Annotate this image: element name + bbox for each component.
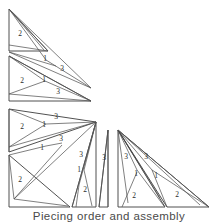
piece-label: 3 <box>59 134 63 143</box>
unit-7-seam-b <box>118 130 152 170</box>
triangle-unit-5 <box>72 122 96 207</box>
piecing-diagram: 2 1 3 2 1 3 <box>0 0 218 224</box>
unit-1-long-seam-d <box>9 52 56 66</box>
piece-label: 2 <box>83 185 87 194</box>
piece-label: 2 <box>132 191 136 200</box>
piece-label: 1 <box>42 75 46 84</box>
piece-label: 2 <box>18 29 22 38</box>
piece-label: 2 <box>18 175 22 184</box>
unit-2-seam-d <box>9 81 45 94</box>
triangle-unit-1 <box>9 9 48 51</box>
unit-4-seam-f <box>14 199 68 206</box>
piece-label: 2 <box>20 76 24 85</box>
piece-label: 3 <box>102 153 106 162</box>
piece-label: 1 <box>40 143 44 152</box>
unit-5-seam-d <box>84 122 96 170</box>
unit-3-seam-a <box>9 109 46 124</box>
unit-3-seam-b <box>46 122 96 124</box>
piece-label: 1 <box>42 120 46 129</box>
unit-4-seam-c <box>14 145 62 199</box>
piece-label: 1 <box>154 171 158 180</box>
piece-label: 3 <box>56 87 60 96</box>
piece-label: 1 <box>43 54 47 63</box>
piece-label: 2 <box>20 122 24 131</box>
piece-label: 2 <box>175 190 179 199</box>
figure-page: 2 1 3 2 1 3 <box>0 0 218 224</box>
piece-label: 3 <box>124 152 128 161</box>
unit-4-seam-e <box>46 143 62 146</box>
unit-5b-seam-a <box>99 130 108 207</box>
piece-label: 3 <box>79 150 83 159</box>
piece-label: 1 <box>134 169 138 178</box>
unit-1-long-seam-b <box>9 9 46 60</box>
unit-2-seam-e <box>9 94 91 101</box>
unit-1-long-seam-c <box>46 60 91 88</box>
piece-label: 3 <box>144 152 148 161</box>
piece-label: 1 <box>77 165 81 174</box>
unit-1-seam-b <box>9 9 44 50</box>
triangle-unit-5b <box>99 130 108 207</box>
unit-4-seam-a <box>9 155 14 199</box>
piece-label: 3 <box>60 64 64 73</box>
piece-label: 3 <box>54 112 58 121</box>
figure-caption: Piecing order and assembly <box>0 210 218 222</box>
